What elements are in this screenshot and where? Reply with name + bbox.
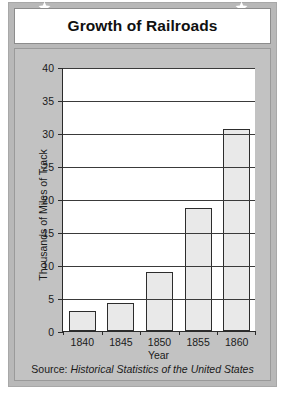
bar — [223, 129, 250, 331]
gridline — [63, 200, 255, 201]
source-citation: Historical Statistics of the United Stat… — [70, 363, 253, 375]
x-axis-tick — [179, 331, 180, 335]
y-axis-tick — [58, 200, 63, 201]
x-axis-title: Year — [62, 349, 255, 361]
gridline — [63, 299, 255, 300]
plot-area: 051015202530354018401845185018551860 — [62, 68, 255, 332]
y-axis-tick — [58, 299, 63, 300]
page-title: Growth of Railroads — [67, 17, 217, 35]
y-axis-tick — [58, 101, 63, 102]
gridline — [63, 266, 255, 267]
x-axis-tick-label: 1840 — [71, 336, 94, 348]
x-axis-tick-label: 1860 — [225, 336, 248, 348]
figure-root: Growth of Railroads Thousands of Miles o… — [0, 0, 285, 401]
bar — [146, 272, 173, 331]
y-axis-tick — [58, 68, 63, 69]
y-axis-tick-label: 10 — [42, 260, 54, 272]
x-axis-tick — [102, 331, 103, 335]
y-axis-tick — [58, 233, 63, 234]
gridline — [63, 134, 255, 135]
x-axis-tick-label: 1855 — [186, 336, 209, 348]
gridline — [63, 68, 255, 69]
bar — [185, 208, 212, 331]
source-note: Source: Historical Statistics of the Uni… — [14, 363, 271, 375]
x-axis-tick-label: 1845 — [109, 336, 132, 348]
x-axis-tick — [140, 331, 141, 335]
source-prefix: Source: — [31, 363, 70, 375]
x-axis-tick-label: 1850 — [148, 336, 171, 348]
gridline — [63, 101, 255, 102]
bar — [69, 311, 96, 331]
y-axis-tick-label: 25 — [42, 161, 54, 173]
y-axis-tick-label: 40 — [42, 62, 54, 74]
gridline — [63, 167, 255, 168]
chart-title-box: Growth of Railroads — [14, 8, 271, 44]
y-axis-tick — [58, 266, 63, 267]
y-axis-tick-label: 15 — [42, 227, 54, 239]
y-axis-tick-label: 30 — [42, 128, 54, 140]
y-axis-tick-label: 5 — [48, 293, 54, 305]
y-axis-tick — [58, 134, 63, 135]
chart-panel: Thousands of Miles of Track 051015202530… — [14, 48, 271, 381]
y-axis-tick-label: 0 — [48, 326, 54, 338]
gridline — [63, 233, 255, 234]
bar — [107, 303, 134, 331]
x-axis-tick — [63, 331, 64, 335]
y-axis-tick-label: 35 — [42, 95, 54, 107]
y-axis-tick — [58, 167, 63, 168]
x-axis-tick — [217, 331, 218, 335]
y-axis-tick-label: 20 — [42, 194, 54, 206]
x-axis-tick — [255, 331, 256, 335]
